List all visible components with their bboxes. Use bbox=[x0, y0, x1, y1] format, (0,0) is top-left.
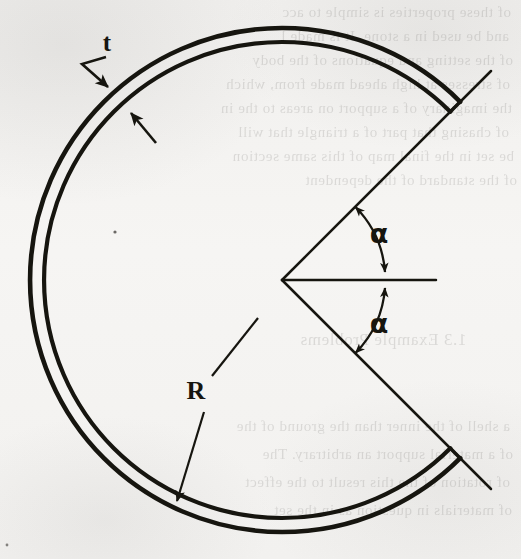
angle-lower-label: α bbox=[370, 308, 389, 339]
radius-leader-upper bbox=[212, 318, 258, 376]
thickness-label: t bbox=[103, 29, 112, 56]
angle-upper-label: α bbox=[370, 218, 389, 249]
thickness-leader-inner bbox=[131, 113, 156, 143]
figure-canvas: of these properties is simple to acc and… bbox=[0, 0, 521, 559]
thickness-leader-outer bbox=[82, 57, 108, 87]
scan-speck bbox=[113, 230, 116, 233]
scan-speck bbox=[6, 544, 9, 547]
radius-label: R bbox=[187, 376, 206, 405]
split-ring-diagram: t R α α bbox=[0, 0, 521, 559]
radius-leader-lower bbox=[177, 412, 204, 501]
